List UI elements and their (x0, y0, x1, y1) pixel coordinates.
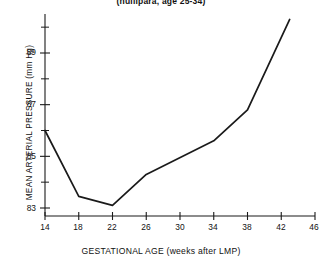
axis-lines (45, 14, 315, 216)
chart-figure: (nullipara, age 25-34) MEAN ARTERIAL PRE… (0, 0, 322, 266)
plot-area (0, 0, 322, 266)
data-series-line (45, 19, 290, 205)
